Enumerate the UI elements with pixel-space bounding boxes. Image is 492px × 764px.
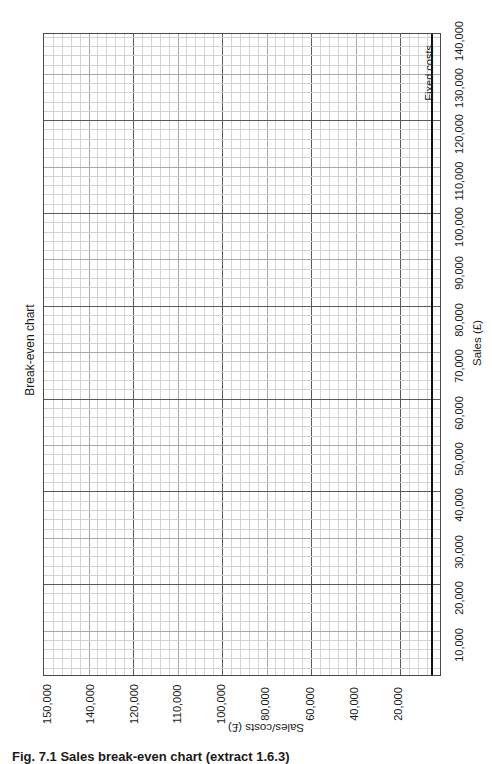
grid-hline — [44, 631, 440, 632]
grid-hline — [44, 259, 440, 260]
grid-hline — [44, 167, 440, 168]
grid-hline — [44, 352, 440, 353]
grid-hline — [44, 389, 440, 390]
grid-hline — [44, 334, 440, 335]
grid-hline — [44, 501, 440, 502]
grid-hline — [44, 658, 440, 659]
grid-hline — [44, 575, 440, 576]
graph-paper-grid — [44, 34, 440, 675]
grid-hline — [44, 640, 440, 641]
grid-hline — [44, 491, 440, 492]
grid-hline — [44, 111, 440, 112]
grid-hline — [44, 510, 440, 511]
grid-hline — [44, 232, 440, 233]
grid-hline — [44, 417, 440, 418]
grid-hline — [44, 37, 440, 38]
grid-hline — [44, 649, 440, 650]
grid-hline — [44, 194, 440, 195]
y-tick-label: 150,000 — [40, 674, 54, 734]
x-tick-label: 140,000 — [452, 11, 466, 71]
grid-hline — [44, 278, 440, 279]
grid-hline — [44, 408, 440, 409]
grid-hline — [44, 185, 440, 186]
grid-hline — [44, 176, 440, 177]
grid-hline — [44, 148, 440, 149]
grid-hline — [44, 65, 440, 66]
grid-hline — [44, 603, 440, 604]
grid-hline — [44, 129, 440, 130]
grid-hline — [44, 269, 440, 270]
fixed-costs-label: Fixed costs — [423, 45, 435, 101]
x-axis-title: Sales (£) — [471, 313, 487, 373]
grid-hline — [44, 315, 440, 316]
grid-hline — [44, 297, 440, 298]
grid-hline — [44, 538, 440, 539]
grid-hline — [44, 102, 440, 103]
grid-hline — [44, 46, 440, 47]
grid-hline — [44, 324, 440, 325]
grid-hline — [44, 250, 440, 251]
grid-hline — [44, 464, 440, 465]
grid-hline — [44, 371, 440, 372]
grid-hline — [44, 547, 440, 548]
grid-hline — [44, 74, 440, 75]
grid-hline — [44, 361, 440, 362]
grid-hline — [44, 343, 440, 344]
grid-hline — [44, 55, 440, 56]
grid-hline — [44, 139, 440, 140]
grid-hline — [44, 529, 440, 530]
grid-hline — [44, 668, 440, 669]
grid-hline — [44, 92, 440, 93]
grid-hline — [44, 593, 440, 594]
grid-hline — [44, 287, 440, 288]
grid-hline — [44, 120, 440, 121]
y-axis-title: Sales/costs (£) — [228, 722, 304, 734]
y-tick-label: 120,000 — [127, 674, 141, 734]
y-tick-label: 60,000 — [303, 674, 317, 734]
grid-hline — [44, 473, 440, 474]
grid-hline — [44, 612, 440, 613]
grid-hline — [44, 566, 440, 567]
y-tick-label: 20,000 — [391, 674, 405, 734]
grid-hline — [44, 306, 440, 307]
grid-hline — [44, 519, 440, 520]
chart-title: Break-even chart — [22, 290, 38, 410]
grid-hline — [44, 454, 440, 455]
grid-hline — [44, 204, 440, 205]
chart-plot-area — [43, 33, 441, 676]
y-tick-label: 140,000 — [83, 674, 97, 734]
grid-hline — [44, 621, 440, 622]
grid-hline — [44, 584, 440, 585]
grid-hline — [44, 399, 440, 400]
grid-hline — [44, 213, 440, 214]
grid-hline — [44, 482, 440, 483]
grid-hline — [44, 380, 440, 381]
grid-hline — [44, 241, 440, 242]
grid-hline — [44, 83, 440, 84]
grid-hline — [44, 157, 440, 158]
figure-caption: Fig. 7.1 Sales break-even chart (extract… — [12, 749, 289, 764]
fixed-costs-line — [431, 34, 433, 675]
y-tick-label: 110,000 — [170, 674, 184, 734]
grid-hline — [44, 426, 440, 427]
y-tick-label: 40,000 — [347, 674, 361, 734]
grid-hline — [44, 556, 440, 557]
y-tick-label: 100,000 — [214, 674, 228, 734]
grid-hline — [44, 222, 440, 223]
grid-hline — [44, 445, 440, 446]
grid-hline — [44, 436, 440, 437]
